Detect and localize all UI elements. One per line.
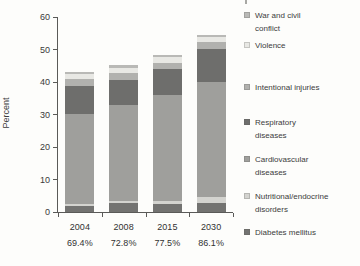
scan-artifact bbox=[245, 0, 247, 4]
legend: War and civilconflictViolenceIntentional… bbox=[244, 0, 356, 266]
x-tick-label-year: 2008 bbox=[102, 222, 146, 232]
figure: Percent 0102030405060200469.4%200872.8%2… bbox=[0, 0, 360, 266]
x-tick-sublabel-percent: 77.5% bbox=[145, 238, 189, 248]
legend-label: Violence bbox=[255, 39, 286, 52]
bar-segment-intentional-injuries bbox=[109, 73, 138, 80]
bar-segment-diabetes-mellitus bbox=[197, 203, 226, 212]
x-tick-label-year: 2030 bbox=[189, 222, 233, 232]
bar-segment-cardiovascular-diseases bbox=[65, 114, 94, 204]
bar-segment-respiratory-diseases bbox=[197, 49, 226, 82]
y-tick-label: 30 bbox=[29, 110, 50, 120]
x-axis-tick bbox=[146, 213, 147, 217]
legend-swatch bbox=[244, 12, 250, 18]
bar-segment-respiratory-diseases bbox=[65, 86, 94, 114]
y-tick-label: 0 bbox=[29, 207, 50, 217]
bar-segment-diabetes-mellitus bbox=[109, 203, 138, 212]
bar-segment-respiratory-diseases bbox=[153, 69, 182, 95]
x-tick-sublabel-percent: 86.1% bbox=[189, 238, 233, 248]
y-tick-label: 20 bbox=[29, 142, 50, 152]
legend-swatch bbox=[244, 229, 250, 235]
legend-label: Respiratorydiseases bbox=[255, 116, 296, 142]
legend-item-diabetes-mellitus: Diabetes mellitus bbox=[244, 226, 316, 239]
x-tick-label-year: 2015 bbox=[145, 222, 189, 232]
y-axis-tick bbox=[53, 17, 57, 18]
y-axis-tick bbox=[53, 49, 57, 50]
y-tick-label: 40 bbox=[29, 77, 50, 87]
plot-area: 0102030405060200469.4%200872.8%201577.5%… bbox=[57, 17, 233, 213]
legend-label: Intentional injuries bbox=[255, 81, 319, 94]
legend-label: War and civilconflict bbox=[255, 9, 301, 35]
y-tick-label: 60 bbox=[29, 12, 50, 22]
legend-swatch bbox=[244, 156, 250, 162]
legend-label: Nutritional/endocrinedisorders bbox=[255, 190, 328, 216]
x-axis-tick bbox=[102, 213, 103, 217]
legend-item-intentional-injuries: Intentional injuries bbox=[244, 81, 319, 94]
legend-swatch bbox=[244, 42, 250, 48]
x-tick-label-year: 2004 bbox=[58, 222, 102, 232]
stacked-bar-2008 bbox=[109, 65, 138, 212]
stacked-bar-2015 bbox=[153, 55, 182, 212]
y-axis-tick bbox=[53, 147, 57, 148]
y-tick-label: 50 bbox=[29, 45, 50, 55]
bar-segment-diabetes-mellitus bbox=[65, 206, 94, 212]
legend-item-respiratory-diseases: Respiratorydiseases bbox=[244, 116, 296, 142]
bar-segment-respiratory-diseases bbox=[109, 80, 138, 104]
x-axis-tick bbox=[189, 213, 190, 217]
x-axis-tick bbox=[233, 213, 234, 217]
legend-item-nutritional-endocrine-disorders: Nutritional/endocrinedisorders bbox=[244, 190, 328, 216]
y-axis-title: Percent bbox=[1, 78, 11, 148]
y-tick-label: 10 bbox=[29, 175, 50, 185]
stacked-bar-2030 bbox=[197, 35, 226, 212]
y-axis-tick bbox=[53, 114, 57, 115]
y-axis-tick bbox=[53, 82, 57, 83]
x-tick-sublabel-percent: 69.4% bbox=[58, 238, 102, 248]
legend-swatch bbox=[244, 119, 250, 125]
legend-label: Cardiovasculardiseases bbox=[255, 153, 308, 179]
bar-segment-cardiovascular-diseases bbox=[153, 95, 182, 201]
legend-swatch bbox=[244, 193, 250, 199]
y-axis-tick bbox=[53, 179, 57, 180]
legend-label: Diabetes mellitus bbox=[255, 226, 316, 239]
legend-item-cardiovascular-diseases: Cardiovasculardiseases bbox=[244, 153, 308, 179]
bar-segment-intentional-injuries bbox=[197, 42, 226, 49]
bar-segment-cardiovascular-diseases bbox=[197, 82, 226, 198]
stacked-bar-2004 bbox=[65, 72, 94, 212]
bar-segment-diabetes-mellitus bbox=[153, 204, 182, 212]
x-axis-tick bbox=[58, 213, 59, 217]
legend-swatch bbox=[244, 84, 250, 90]
y-axis-tick bbox=[53, 212, 57, 213]
x-tick-sublabel-percent: 72.8% bbox=[102, 238, 146, 248]
legend-item-war-and-civil-conflict: War and civilconflict bbox=[244, 9, 301, 35]
bar-segment-cardiovascular-diseases bbox=[109, 105, 138, 201]
legend-item-violence: Violence bbox=[244, 39, 286, 52]
